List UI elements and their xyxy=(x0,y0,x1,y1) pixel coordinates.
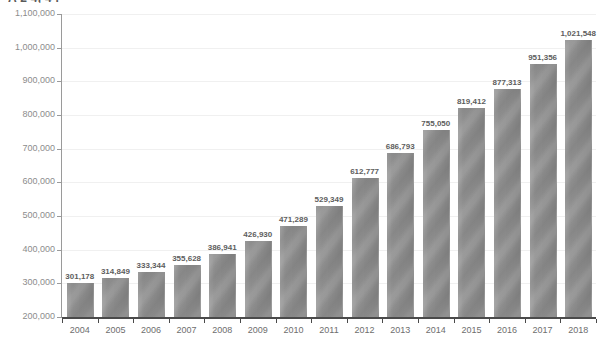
y-axis-tick xyxy=(57,14,62,15)
bar-value-label: 951,356 xyxy=(523,53,563,62)
x-axis-tick xyxy=(560,319,561,323)
bar-value-label: 386,941 xyxy=(202,243,242,252)
x-axis-tick-label: 2010 xyxy=(276,325,312,335)
y-axis-tick-label: 300,000 xyxy=(3,277,55,287)
x-axis-tick-label: 2016 xyxy=(489,325,525,335)
bar-value-label: 529,349 xyxy=(309,195,349,204)
x-axis-tick-label: 2011 xyxy=(311,325,347,335)
y-axis-tick-label: 200,000 xyxy=(3,311,55,321)
x-axis-tick xyxy=(418,319,419,323)
x-axis-tick xyxy=(169,319,170,323)
x-axis-tick-label: 2017 xyxy=(525,325,561,335)
y-axis-tick xyxy=(57,250,62,251)
x-axis-tick xyxy=(489,319,490,323)
y-axis-tick-label: 400,000 xyxy=(3,244,55,254)
bar-value-label: 301,178 xyxy=(60,272,100,281)
y-axis-tick-label: 900,000 xyxy=(3,75,55,85)
x-axis-tick-label: 2014 xyxy=(418,325,454,335)
x-axis-tick xyxy=(596,319,597,323)
y-axis-tick xyxy=(57,216,62,217)
bar-labels-layer: 301,178314,849333,344355,628386,941426,9… xyxy=(62,14,596,317)
y-axis-tick xyxy=(57,283,62,284)
x-axis-tick-label: 2006 xyxy=(133,325,169,335)
x-axis-tick xyxy=(311,319,312,323)
y-axis-tick xyxy=(57,182,62,183)
x-axis-tick-label: 2008 xyxy=(204,325,240,335)
bar-value-label: 1,021,548 xyxy=(558,29,598,38)
bar-value-label: 426,930 xyxy=(238,230,278,239)
x-axis-tick-label: 2018 xyxy=(560,325,596,335)
x-axis-tick xyxy=(525,319,526,323)
y-axis-tick xyxy=(57,115,62,116)
x-axis-tick-label: 2009 xyxy=(240,325,276,335)
x-axis-tick xyxy=(276,319,277,323)
bar-value-label: 819,412 xyxy=(451,97,491,106)
bar-value-label: 314,849 xyxy=(95,267,135,276)
bar-value-label: 471,289 xyxy=(273,215,313,224)
x-axis-tick xyxy=(204,319,205,323)
bar-value-label: 333,344 xyxy=(131,261,171,270)
x-axis-tick-label: 2007 xyxy=(169,325,205,335)
y-axis-labels: 1,100,0001,000,000900,000800,000700,0006… xyxy=(0,0,55,343)
y-axis-tick-label: 500,000 xyxy=(3,210,55,220)
bar-value-label: 755,050 xyxy=(416,119,456,128)
x-axis-tick xyxy=(133,319,134,323)
y-axis-tick-label: 700,000 xyxy=(3,143,55,153)
y-axis-tick xyxy=(57,149,62,150)
x-axis-tick xyxy=(62,319,63,323)
x-axis-line xyxy=(62,317,596,319)
y-axis-tick-label: 600,000 xyxy=(3,176,55,186)
bar-value-label: 355,628 xyxy=(167,254,207,263)
x-axis-tick-label: 2004 xyxy=(62,325,98,335)
x-axis-tick-label: 2005 xyxy=(98,325,134,335)
x-axis-tick-label: 2012 xyxy=(347,325,383,335)
x-axis-tick xyxy=(347,319,348,323)
y-axis-tick-label: 800,000 xyxy=(3,109,55,119)
x-axis-tick xyxy=(240,319,241,323)
x-axis-tick xyxy=(382,319,383,323)
bar-value-label: 686,793 xyxy=(380,142,420,151)
y-axis-tick-label: 1,000,000 xyxy=(3,42,55,52)
bar-value-label: 612,777 xyxy=(345,167,385,176)
y-axis-tick xyxy=(57,317,62,318)
y-axis-tick xyxy=(57,81,62,82)
y-axis-tick xyxy=(57,48,62,49)
bar-value-label: 877,313 xyxy=(487,78,527,87)
x-axis-tick xyxy=(454,319,455,323)
bar-chart: A 2 4, 4 . 1,100,0001,000,000900,000800,… xyxy=(0,0,602,343)
x-axis-tick xyxy=(98,319,99,323)
x-axis-tick-label: 2015 xyxy=(454,325,490,335)
y-axis-tick-label: 1,100,000 xyxy=(3,8,55,18)
x-axis-tick-label: 2013 xyxy=(382,325,418,335)
